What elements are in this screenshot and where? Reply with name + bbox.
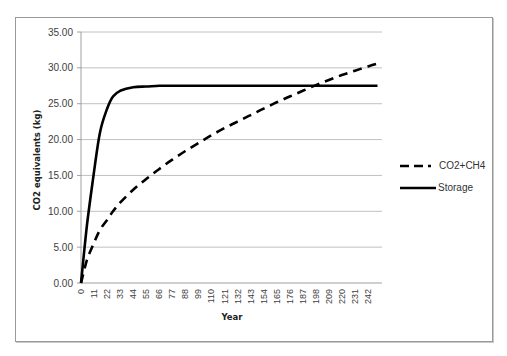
y-tick-label: 35.00 [48,27,73,38]
x-tick-label: 154 [259,289,269,304]
x-tick-label: 55 [141,289,151,299]
x-tick-label: 198 [311,289,321,304]
x-tick-label: 110 [206,289,216,303]
x-tick-label: 121 [220,289,230,304]
y-tick-label: 10.00 [48,206,73,217]
x-tick-label: 143 [246,289,256,304]
y-axis-title: CO2 equivalents (kg) [32,110,42,211]
gridlines [81,32,382,247]
x-tick-label: 66 [154,289,164,299]
line-chart: 0.005.0010.0015.0020.0025.0030.0035.00 0… [0,0,507,356]
x-tick-label: 33 [115,289,125,299]
x-tick-label: 88 [180,289,190,299]
x-tick-label: 176 [285,289,295,304]
x-tick-label: 22 [102,289,112,299]
y-tick-label: 0.00 [54,278,74,289]
x-tick-label: 165 [272,289,282,304]
y-tick-label: 15.00 [48,170,73,181]
x-tick-label: 99 [193,289,203,299]
y-tick-label: 30.00 [48,62,73,73]
series-co2-ch4 [81,64,378,283]
x-tick-label: 242 [363,289,373,304]
x-tick-label: 220 [337,289,347,304]
x-tick-label: 132 [233,289,243,304]
legend-item-storage: Storage [400,182,473,193]
series-storage [81,86,378,283]
x-axis-title: Year [220,312,243,322]
legend: CO2+CH4 Storage [400,160,486,193]
x-tick-label: 209 [324,289,334,304]
y-tick-label: 20.00 [48,134,73,145]
legend-label-co2-ch4: CO2+CH4 [439,160,486,171]
x-tick-label: 0 [76,289,86,294]
series-lines [81,64,378,283]
x-axis-ticks: 0112233445566778899110121132143154165176… [76,289,373,304]
axes [81,32,382,283]
x-tick-label: 231 [350,289,360,304]
y-tick-label: 5.00 [54,242,74,253]
x-tick-label: 77 [167,289,177,299]
x-tick-label: 11 [89,289,99,298]
x-tick-label: 44 [128,289,138,299]
legend-label-storage: Storage [438,182,473,193]
y-tick-label: 25.00 [48,98,73,109]
x-tick-label: 187 [298,289,308,304]
y-axis-ticks: 0.005.0010.0015.0020.0025.0030.0035.00 [48,27,81,289]
legend-item-co2-ch4: CO2+CH4 [400,160,486,171]
